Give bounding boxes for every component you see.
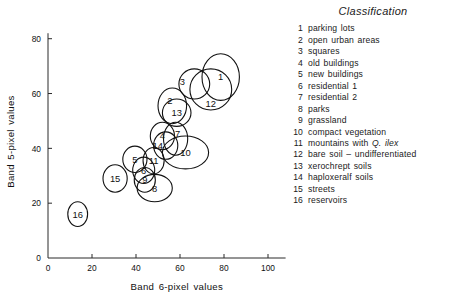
legend-item-number: 11 [289,138,303,149]
legend-item-label: residential 1 [308,81,357,92]
legend-item-number: 4 [289,58,303,69]
x-tick-label: 60 [175,263,185,273]
legend-item-number: 2 [289,35,303,46]
legend-item-label: grassland [308,115,347,126]
y-tick-label: 40 [32,144,42,154]
legend-item-list: 1parking lots2open urban areas3squares4o… [289,23,449,206]
ellipse-label: 10 [180,147,190,158]
legend-item-label: squares [308,46,340,57]
legend-item-number: 7 [289,92,303,103]
axes: 020406080100020406080 [32,33,286,273]
legend-item-label: new buildings [308,69,363,80]
legend-item-number: 3 [289,46,303,57]
legend-item-label: parks [308,104,330,115]
cluster-ellipse-12: 12 [190,69,232,110]
legend-item-label: parking lots [308,23,355,34]
cluster-ellipse-16: 16 [68,202,88,227]
legend-item-number: 14 [289,172,303,183]
legend-item-number: 9 [289,115,303,126]
x-axis-title: Band 6-pixel values [131,281,223,292]
legend-item: 3squares [289,46,449,57]
legend-item-label: reservoirs [308,195,347,206]
legend-item-label: compact vegetation [308,127,386,138]
legend-item: 10compact vegetation [289,127,449,138]
legend-item: 4old buildings [289,58,449,69]
legend-item-label: bare soil – undifferentiated [308,149,416,160]
x-tick-label: 0 [46,263,51,273]
legend-item-number: 13 [289,161,303,172]
legend-item: 13xerochrept soils [289,161,449,172]
ellipse-label: 11 [149,155,159,166]
legend-item-number: 10 [289,127,303,138]
ellipse-label: 13 [171,107,181,118]
legend-item-number: 12 [289,149,303,160]
legend-item: 7residential 2 [289,92,449,103]
cluster-ellipses: 12345678910111213141516 [68,54,240,227]
x-tick-label: 20 [87,263,97,273]
ellipse-label: 14 [152,140,162,151]
legend-item: 1parking lots [289,23,449,34]
legend-item: 8parks [289,104,449,115]
y-tick-label: 80 [32,34,42,44]
cluster-ellipse-11: 11 [143,148,164,174]
ellipse-label: 9 [142,174,147,185]
scatter-chart: 020406080100020406080 123456789101112131… [0,0,450,302]
ellipse-label: 3 [180,76,185,87]
legend-title: Classification [297,6,449,17]
y-tick-label: 0 [36,253,41,263]
legend-item: 16reservoirs [289,195,449,206]
legend-item-label: xerochrept soils [308,161,372,172]
legend-item-label: haploxeralf soils [308,172,373,183]
legend-item: 11mountains with Q. ilex [289,138,449,149]
legend-item-number: 16 [289,195,303,206]
legend-item-label: residential 2 [308,92,357,103]
legend-item-number: 15 [289,184,303,195]
cluster-ellipse-15: 15 [103,165,127,192]
legend-item: 6residential 1 [289,81,449,92]
legend-item: 9grassland [289,115,449,126]
legend-item-number: 6 [289,81,303,92]
x-tick-label: 80 [219,263,229,273]
legend-item: 2open urban areas [289,35,449,46]
legend-item-number: 5 [289,69,303,80]
ellipse-label: 1 [218,71,223,82]
legend-item: 15streets [289,184,449,195]
legend-item-number: 8 [289,104,303,115]
legend-item-label: old buildings [308,58,359,69]
legend-item-number: 1 [289,23,303,34]
legend: Classification 1parking lots2open urban … [289,6,449,207]
legend-item: 14haploxeralf soils [289,172,449,183]
y-tick-label: 20 [32,198,42,208]
legend-item-label: open urban areas [308,35,380,46]
x-tick-label: 100 [261,263,275,273]
legend-item-species: Q. ilex [372,138,398,148]
ellipse-label: 12 [206,98,216,109]
legend-item-label: streets [308,184,335,195]
legend-item-label: mountains with Q. ilex [308,138,398,149]
x-tick-label: 40 [131,263,141,273]
ellipse-label: 15 [110,173,120,184]
y-axis-title: Band 5-pixel values [5,95,16,187]
cluster-ellipse-3: 3 [179,69,210,99]
legend-item: 5new buildings [289,69,449,80]
y-tick-label: 60 [32,89,42,99]
ellipse-label: 16 [72,209,82,220]
legend-item: 12bare soil – undifferentiated [289,149,449,160]
